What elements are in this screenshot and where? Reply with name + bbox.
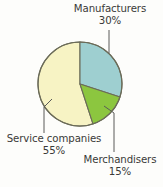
pie-label-manufacturers: Manufacturers 30% [57, 3, 163, 28]
pie-label-service-companies-name: Service companies [0, 133, 110, 145]
pie-label-merchandisers: Merchandisers 15% [77, 154, 163, 179]
pie-chart: Manufacturers 30% Service companies 55% … [0, 0, 163, 187]
pie-label-manufacturers-value: 30% [57, 15, 163, 27]
pie-label-manufacturers-name: Manufacturers [57, 3, 163, 15]
pie-label-merchandisers-value: 15% [77, 166, 163, 178]
pie-label-merchandisers-name: Merchandisers [77, 154, 163, 166]
